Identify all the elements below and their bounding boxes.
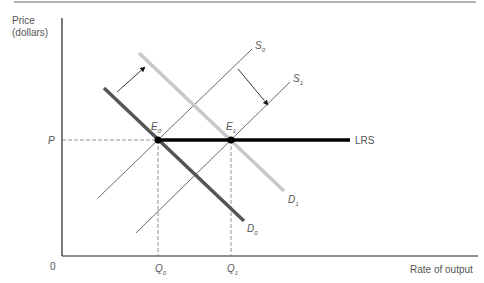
long-run-supply-diagram: Price (dollars) Rate of output 0 P S0 S1… <box>0 0 484 283</box>
y-axis-label-line1: Price <box>12 15 35 26</box>
y-axis-label-line2: (dollars) <box>12 27 48 38</box>
price-tick-label: P <box>48 135 55 146</box>
q1-label: Q1 <box>227 263 238 276</box>
d0-label: D0 <box>247 223 258 236</box>
q0-label: Q0 <box>155 263 167 276</box>
demand-curve-d0 <box>104 88 244 221</box>
equilibrium-point-e1 <box>228 137 235 144</box>
demand-shift-arrow-icon <box>117 67 145 92</box>
x-axis-label: Rate of output <box>410 264 473 275</box>
supply-shift-arrow-icon <box>238 69 268 105</box>
supply-curve-s1 <box>136 82 290 233</box>
e1-label: E1 <box>226 121 236 134</box>
equilibrium-point-e0 <box>155 137 162 144</box>
origin-label: 0 <box>50 261 56 272</box>
s0-label: S0 <box>255 40 266 53</box>
d1-label: D1 <box>288 194 299 207</box>
s1-label: S1 <box>293 73 303 86</box>
lrs-label: LRS <box>355 135 375 146</box>
demand-curve-d1 <box>139 53 284 191</box>
